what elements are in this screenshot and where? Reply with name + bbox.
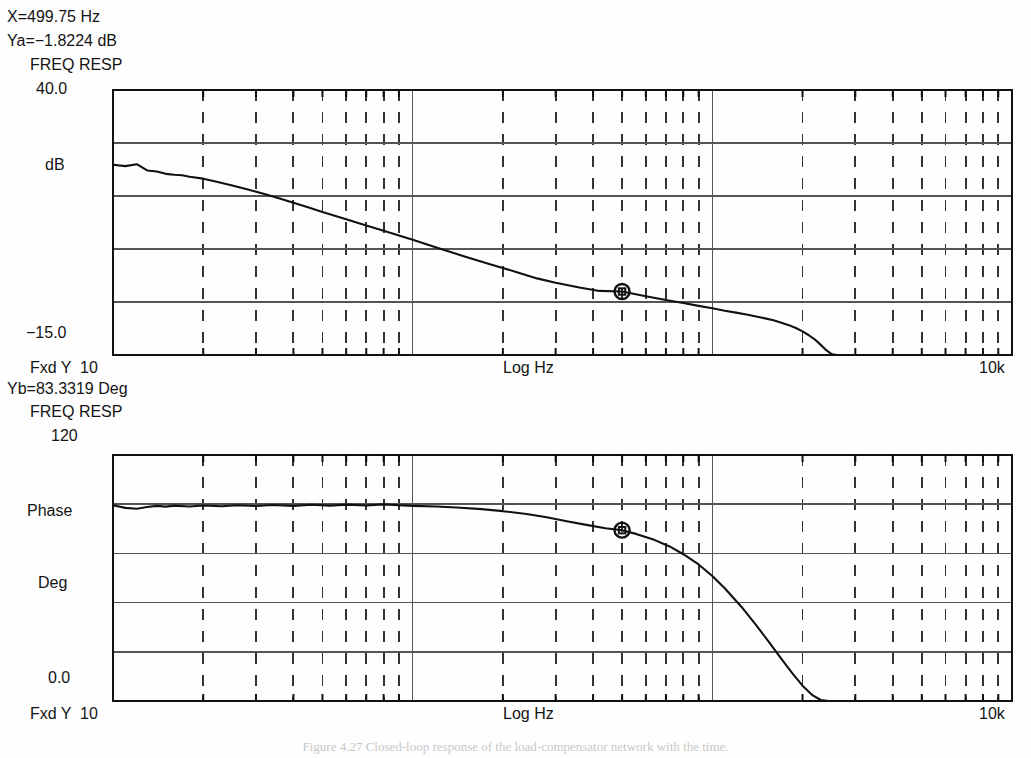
phase-plot <box>0 340 1031 758</box>
phase-plot-canvas <box>0 340 1031 758</box>
figure-caption: Figure 4.27 Closed-loop response of the … <box>0 739 1031 758</box>
